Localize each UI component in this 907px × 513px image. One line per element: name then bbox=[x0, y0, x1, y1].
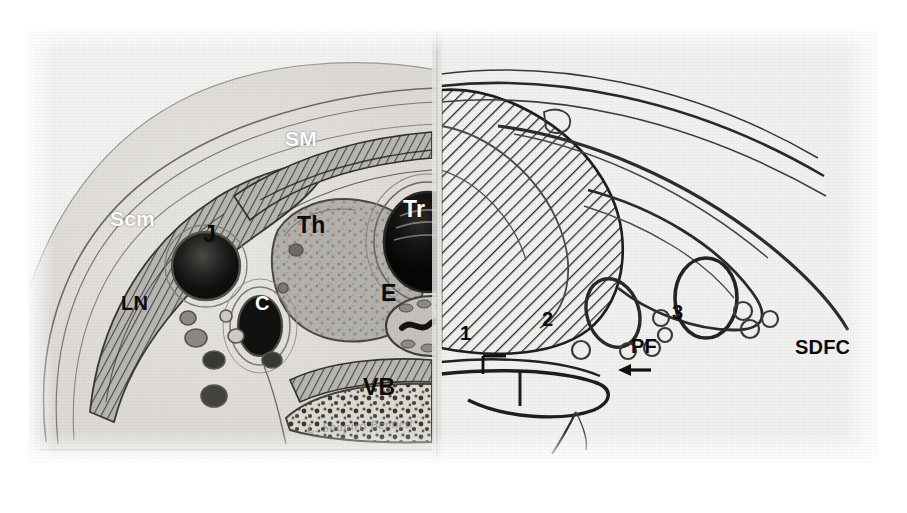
scanned-plate bbox=[28, 30, 878, 462]
anatomy-artwork bbox=[28, 30, 878, 462]
label-vb: VB bbox=[363, 376, 395, 399]
figure-root: SM Scm Th Tr J LN C E VB 1 2 3 PF SDFC L… bbox=[0, 0, 907, 513]
left-photographic-half bbox=[28, 63, 490, 450]
right-schematic-half bbox=[441, 30, 878, 462]
half-split-line bbox=[432, 30, 442, 462]
label-tr: Tr bbox=[403, 198, 425, 221]
label-2: 2 bbox=[542, 309, 553, 329]
label-ln: LN bbox=[121, 293, 148, 313]
label-e: E bbox=[381, 282, 397, 305]
label-j: J bbox=[203, 223, 216, 246]
label-c: C bbox=[255, 293, 270, 313]
label-th: Th bbox=[297, 214, 326, 237]
label-3: 3 bbox=[672, 302, 683, 322]
label-pf: PF bbox=[631, 336, 657, 356]
label-scm: Scm bbox=[110, 208, 155, 229]
label-1: 1 bbox=[460, 323, 471, 343]
label-sdfc: SDFC bbox=[795, 337, 850, 357]
label-sm: SM bbox=[285, 128, 317, 149]
